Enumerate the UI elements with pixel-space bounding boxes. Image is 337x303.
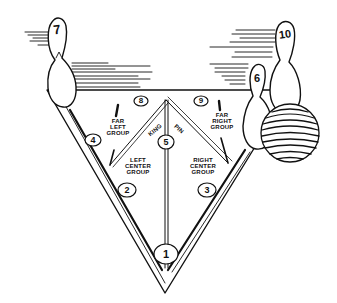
bowling-diagram: 7 10 6 8 9 4 5 2 3 1 FAR LEFT GROUP FAR … xyxy=(0,0,337,303)
pin-4-number: 4 xyxy=(85,134,101,146)
pin-1-number: 1 xyxy=(158,248,174,260)
far-right-group-label: FAR RIGHT GROUP xyxy=(207,112,237,130)
motion-lines-pin7 xyxy=(25,32,152,87)
pin-5-number: 5 xyxy=(158,136,174,148)
far-left-pointer xyxy=(116,105,118,116)
left-center-group-label: LEFT CENTER GROUP xyxy=(120,157,156,175)
pin-7-number: 7 xyxy=(50,21,64,38)
pin-3-number: 3 xyxy=(199,184,215,196)
right-center-group-label: RIGHT CENTER GROUP xyxy=(184,157,222,175)
far-right-pointer xyxy=(219,101,220,110)
pin-2-number: 2 xyxy=(119,184,135,196)
right-center-line xyxy=(166,100,228,163)
pin-10-number: 10 xyxy=(276,27,294,41)
far-left-group-label: FAR LEFT GROUP xyxy=(104,118,132,136)
pin-8-number: 8 xyxy=(133,95,149,107)
pin-6-number: 6 xyxy=(251,72,263,84)
bowling-ball xyxy=(261,104,319,162)
pin-9-number: 9 xyxy=(193,95,209,107)
